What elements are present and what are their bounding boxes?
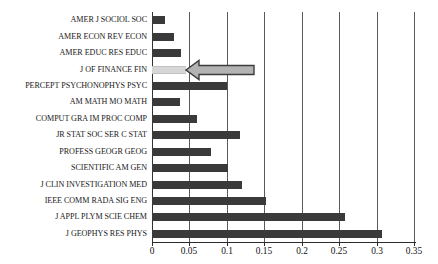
x-tick-label: 0.15: [244, 246, 284, 257]
bar-chart: AMER J SOCIOL SOC AMER ECON REV ECON AME…: [0, 0, 438, 264]
axis-zero-line: [152, 12, 153, 242]
bar: [152, 131, 240, 139]
x-tick-label: 0.1: [207, 246, 247, 257]
bar: [152, 49, 181, 57]
gridline: [339, 12, 340, 242]
gridline: [227, 12, 228, 242]
gridline: [189, 12, 190, 242]
bar: [152, 181, 242, 189]
gridline: [264, 12, 265, 242]
bar: [152, 82, 227, 90]
x-tick-label: 0.35: [394, 246, 434, 257]
category-label: IEEE COMM RADA SIG ENG: [0, 196, 147, 205]
category-label: AMER ECON REV ECON: [0, 32, 147, 41]
bar: [152, 16, 165, 24]
category-axis-labels: AMER J SOCIOL SOC AMER ECON REV ECON AME…: [0, 0, 150, 264]
category-label: AMER EDUC RES EDUC: [0, 48, 147, 57]
x-tick-label: 0.05: [169, 246, 209, 257]
x-tick-label: 0.3: [357, 246, 397, 257]
bar: [152, 148, 211, 156]
plot-area: [152, 12, 415, 242]
category-label: AMER J SOCIOL SOC: [0, 15, 147, 24]
category-label: J CLIN INVESTIGATION MED: [0, 180, 147, 189]
category-label: J GEOPHYS RES PHYS: [0, 229, 147, 238]
bar-highlighted: [152, 66, 186, 74]
x-tick-label: 0.2: [282, 246, 322, 257]
x-tick-label: 0.25: [319, 246, 359, 257]
x-tick-label: 0: [132, 246, 172, 257]
bar: [152, 98, 180, 106]
bar: [152, 33, 174, 41]
bar: [152, 213, 345, 221]
category-label: SCIENTIFIC AM GEN: [0, 163, 147, 172]
category-label: PROFESS GEOGR GEOG: [0, 147, 147, 156]
category-label: AM MATH MO MATH: [0, 97, 147, 106]
category-label: JR STAT SOC SER C STAT: [0, 130, 147, 139]
gridline: [377, 12, 378, 242]
category-label: COMPUT GRA IM PROC COMP: [0, 114, 147, 123]
bar: [152, 230, 382, 238]
category-label: J OF FINANCE FIN: [0, 65, 147, 74]
gridline: [414, 12, 415, 242]
pointer-arrow-icon: [185, 59, 255, 81]
category-label: J APPL PLYM SCIE CHEM: [0, 212, 147, 221]
category-label: PERCEPT PSYCHONOPHYS PSYC: [0, 81, 147, 90]
bar: [152, 164, 228, 172]
bar: [152, 115, 197, 123]
bar: [152, 197, 266, 205]
gridline: [302, 12, 303, 242]
